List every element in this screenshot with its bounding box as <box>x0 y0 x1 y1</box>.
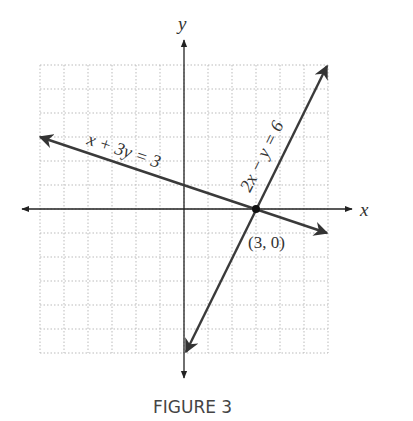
y-axis-label: y <box>176 13 187 34</box>
point-label: (3, 0) <box>248 233 285 252</box>
x-axis-label: x <box>359 199 369 220</box>
figure-caption: FIGURE 3 <box>153 397 232 417</box>
figure-graph: y x x + 3y = 3 2x − y = 6 (3, 0) FIGURE … <box>0 0 413 421</box>
intersection-point <box>252 205 260 213</box>
